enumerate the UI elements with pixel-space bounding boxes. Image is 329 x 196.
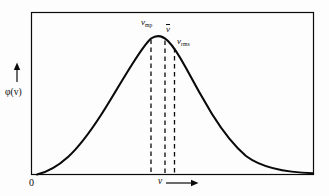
x-axis-label: v	[158, 177, 162, 187]
v-mp-subscript: mp	[145, 22, 152, 28]
x-axis-arrow-icon	[166, 180, 199, 186]
y-axis-label: φ(v)	[5, 88, 22, 98]
plot-area	[0, 0, 329, 196]
origin-label: 0	[29, 178, 34, 188]
y-axis-arrow-icon	[14, 63, 20, 83]
v-rms-subscript: rms	[181, 41, 190, 47]
annotation-label-v-bar: v	[166, 25, 170, 34]
annotation-label-v-mp: vmp	[141, 18, 152, 27]
annotation-label-v-rms: vrms	[177, 37, 190, 46]
x-axis-symbol: v	[158, 176, 162, 186]
v-bar-base: v	[166, 24, 170, 34]
overbar-icon	[166, 24, 171, 25]
figure-maxwell-boltzmann-distribution: vmp v vrms φ(v) 0 v	[0, 0, 329, 196]
